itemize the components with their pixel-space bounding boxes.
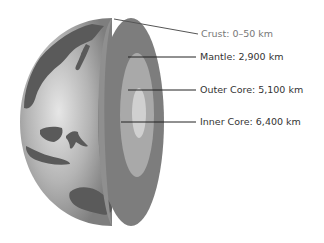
mantle-label: Mantle: 2,900 km xyxy=(200,51,283,63)
crust-label: Crust: 0–50 km xyxy=(201,28,273,40)
inner-core-layer xyxy=(132,88,146,138)
inner-core-label: Inner Core: 6,400 km xyxy=(200,116,301,128)
outer-core-label: Outer Core: 5,100 km xyxy=(200,84,303,96)
